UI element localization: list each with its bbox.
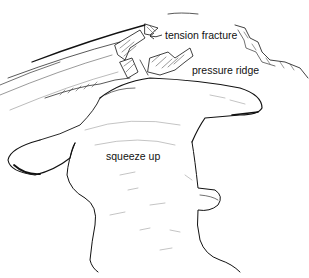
tension-fracture-arrow xyxy=(0,0,309,278)
label-squeeze-up: squeeze up xyxy=(106,151,160,162)
label-pressure-ridge: pressure ridge xyxy=(192,65,259,76)
diagram-canvas: tension fracture pressure ridge squeeze … xyxy=(0,0,309,278)
label-tension-fracture: tension fracture xyxy=(165,30,237,41)
